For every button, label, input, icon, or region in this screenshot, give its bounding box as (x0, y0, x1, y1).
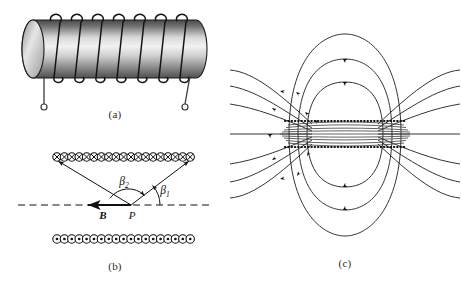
panel-c-field-line-map (228, 14, 462, 258)
solenoid-cylinder (22, 20, 207, 78)
label-beta2: β2 (118, 175, 129, 190)
field-line-flare-l7 (230, 144, 312, 198)
label-beta2-subscript: 2 (125, 181, 129, 190)
label-field-vector-B: B (98, 209, 106, 221)
label-beta1: β1 (159, 184, 169, 199)
field-lines-outer (289, 34, 401, 236)
arrowhead-loop1-tl (296, 92, 300, 97)
arrowhead-loop3-top (343, 82, 348, 86)
field-line-flare-r7 (378, 144, 460, 198)
field-line-in-3 (284, 128, 408, 130)
caption-panel-b: (b) (95, 260, 135, 272)
field-direction-arrowheads (268, 59, 348, 210)
arrowhead-loop3-bottom (343, 183, 348, 187)
bottom-conductor-row-out-of-page (53, 235, 195, 243)
top-conductor-row-into-page (53, 153, 195, 161)
field-line-in-6 (282, 136, 410, 137)
panel-a-solenoid-pictorial (0, 0, 230, 120)
cylinder-end-cap (22, 20, 44, 78)
cylinder-body (22, 20, 207, 78)
caption-panel-a: (a) (95, 108, 135, 120)
field-line-in-4 (282, 131, 410, 132)
arrowhead-loop2-bottom (343, 206, 348, 210)
field-line-flare-r1 (378, 70, 460, 124)
arrowhead-loop2-top (343, 59, 348, 63)
panel-b-svg: β2 β1 B P (0, 132, 230, 262)
panel-c-svg (228, 14, 462, 258)
panel-a-svg (0, 0, 230, 120)
physics-figure-solenoid: (a) (0, 0, 462, 282)
terminal-left (41, 104, 47, 110)
field-line-in-7 (284, 138, 408, 140)
field-line-loop-3 (307, 82, 383, 187)
label-beta1-subscript: 1 (166, 190, 170, 199)
arrowhead-loop1-bl (297, 172, 302, 176)
terminal-right (182, 104, 188, 110)
lead-wire-right (185, 76, 190, 104)
label-field-point-P: P (128, 209, 136, 221)
caption-panel-c: (c) (325, 257, 365, 269)
arrowhead-flare-l3 (272, 108, 277, 113)
field-line-flare-l1 (230, 70, 312, 124)
ray-to-right-end (131, 161, 189, 205)
field-line-loop-1 (289, 34, 401, 236)
arrowhead-flare-l5 (272, 155, 277, 160)
arrowhead-flare-l4 (268, 134, 273, 138)
angle-arc-beta2 (110, 189, 145, 198)
arrowhead-flare-l2 (280, 90, 286, 94)
arrowhead-flare-l6 (280, 176, 286, 180)
panel-b-solenoid-cross-section: β2 β1 B P (0, 132, 230, 262)
